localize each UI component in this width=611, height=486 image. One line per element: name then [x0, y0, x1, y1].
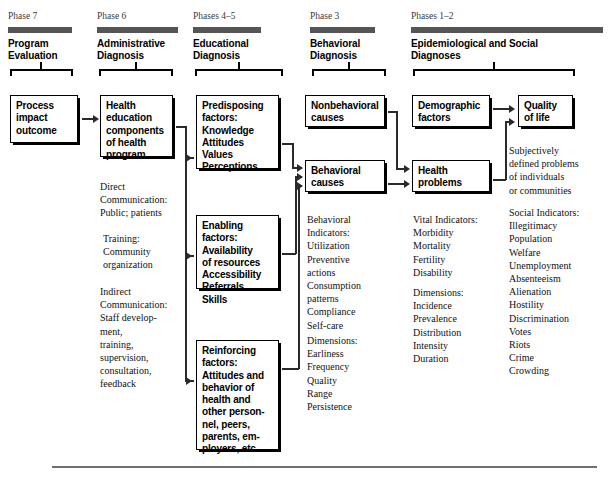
arrow-enabling-to-behavioral	[297, 173, 303, 181]
bracket-phase-6	[99, 62, 173, 77]
note-indirect-communication: Indirect Communication: Staff develop- m…	[100, 285, 167, 391]
phase-label-7: Phase 7	[8, 11, 37, 21]
box-predisposing-factors[interactable]: Predisposing factors: Knowledge Attitude…	[196, 95, 279, 169]
diagram-canvas: Phase 7 Program Evaluation Phase 6 Admin…	[0, 0, 611, 486]
phase-label-1-2: Phases 1–2	[411, 11, 454, 21]
phase-bar-6	[97, 27, 178, 33]
note-behavioral-indicators: Behavioral Indicators: Utilization Preve…	[307, 213, 361, 332]
phase-title-educational-diagnosis: Educational Diagnosis	[193, 38, 249, 62]
bracket-phase-7	[10, 62, 73, 77]
arrow-demographic-to-quality	[509, 105, 515, 113]
phase-bar-7	[8, 27, 72, 33]
note-subjectively-defined: Subjectively defined problems of individ…	[509, 144, 579, 197]
phase-label-4-5: Phases 4–5	[193, 11, 236, 21]
box-behavioral-causes[interactable]: Behavioral causes	[305, 160, 385, 192]
phase-label-6: Phase 6	[97, 11, 126, 21]
phase-title-behavioral-diagnosis: Behavioral Diagnosis	[310, 38, 360, 62]
connector-nonbehavioral-drop	[396, 111, 398, 169]
note-training: Training: Community organization	[103, 232, 153, 272]
connector-enabling-out	[282, 253, 296, 255]
bracket-phase-1-2	[413, 62, 575, 77]
arrow-to-enabling	[186, 252, 192, 260]
box-nonbehavioral-causes[interactable]: Nonbehavioral causes	[305, 95, 385, 127]
connector-health-problems-rise	[505, 121, 507, 180]
connector-predisposing-drop	[292, 143, 294, 168]
box-process-impact-outcome[interactable]: Process impact outcome	[10, 95, 78, 143]
note-health-dimensions: Dimensions: Incidence Prevalence Distrib…	[413, 286, 464, 365]
arrow-reinforcing-to-behavioral	[297, 182, 303, 190]
box-health-problems[interactable]: Health problems	[412, 160, 490, 192]
arrow-predisposing-to-behavioral	[297, 164, 303, 172]
phase-bar-1-2	[411, 27, 603, 33]
arrow-behavioral-to-health-problems	[404, 180, 410, 188]
box-enabling-factors[interactable]: Enabling factors: Availability of resour…	[196, 215, 279, 289]
arrow-to-reinforcing	[186, 377, 192, 385]
arrow-process-to-health-ed	[93, 115, 99, 123]
note-direct-communication: Direct Communication: Public; patients	[100, 180, 167, 220]
phase-title-program-evaluation: Program Evaluation	[8, 38, 58, 62]
connector-reinforcing-rise	[298, 185, 300, 369]
arrow-health-problems-to-quality	[509, 118, 515, 126]
arrow-to-predisposing	[186, 154, 192, 162]
phase-label-3: Phase 3	[310, 11, 339, 21]
note-behavioral-dimensions: Dimensions: Earliness Frequency Quality …	[307, 334, 358, 413]
phase-title-epidemiological-social-diagnoses: Epidemiological and Social Diagnoses	[411, 38, 538, 62]
connector-reinforcing-out	[282, 368, 299, 370]
phase-title-administrative-diagnosis: Administrative Diagnosis	[97, 38, 165, 62]
bracket-phase-4-5	[195, 62, 283, 77]
connector-demographic-to-quality	[493, 108, 510, 110]
arrow-nonbehavioral-to-health-problems	[404, 165, 410, 173]
bracket-phase-3	[312, 62, 386, 77]
box-reinforcing-factors[interactable]: Reinforcing factors: Attitudes and behav…	[196, 340, 279, 450]
box-demographic-factors[interactable]: Demographic factors	[412, 95, 490, 127]
footer-rule	[52, 466, 597, 468]
connector-behavioral-to-health-problems	[388, 183, 404, 185]
note-vital-indicators: Vital Indicators: Morbidity Mortality Fe…	[413, 213, 478, 279]
phase-bar-4-5	[193, 27, 261, 33]
box-quality-of-life[interactable]: Quality of life	[518, 95, 573, 127]
phase-bar-3	[310, 27, 375, 33]
note-social-indicators: Social Indicators: Illegitimacy Populati…	[509, 206, 579, 378]
box-health-education-components[interactable]: Health education components of health pr…	[100, 95, 173, 157]
